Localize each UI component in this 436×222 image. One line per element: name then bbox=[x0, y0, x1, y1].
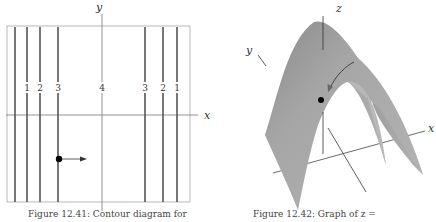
point-marker bbox=[56, 156, 62, 162]
contour-label: 2 bbox=[160, 83, 166, 93]
contour-diagram-figure: 1 2 3 4 3 2 1 y x Figure 12.41: Contour … bbox=[0, 0, 218, 222]
surface-parabolic-cylinder bbox=[265, 21, 423, 210]
y-axis-lower bbox=[328, 128, 366, 192]
x-axis-label: x bbox=[428, 122, 435, 135]
contour-label: 2 bbox=[37, 83, 43, 93]
figure-caption-right: Figure 12.42: Graph of z = bbox=[253, 209, 376, 219]
contour-label: 1 bbox=[174, 83, 180, 93]
contour-diagram: 1 2 3 4 3 2 1 y x bbox=[0, 0, 218, 222]
z-axis-label: z bbox=[335, 2, 342, 15]
contour-label: 1 bbox=[24, 83, 30, 93]
point-marker bbox=[318, 97, 324, 103]
contour-label: 3 bbox=[142, 83, 148, 93]
surface-graph: z y x bbox=[218, 0, 436, 222]
y-axis-upper bbox=[258, 55, 266, 66]
y-axis-label: y bbox=[95, 1, 103, 14]
contour-label: 4 bbox=[99, 83, 105, 93]
x-axis-label: x bbox=[204, 109, 211, 122]
figure-caption-left: Figure 12.41: Contour diagram for bbox=[28, 209, 187, 219]
contour-lines bbox=[15, 27, 177, 202]
arrow-head-icon bbox=[80, 157, 87, 162]
contour-label: 3 bbox=[55, 83, 61, 93]
y-axis-label: y bbox=[245, 44, 253, 57]
surface-graph-figure: z y x Figure 12.42: Graph of z = bbox=[218, 0, 436, 222]
